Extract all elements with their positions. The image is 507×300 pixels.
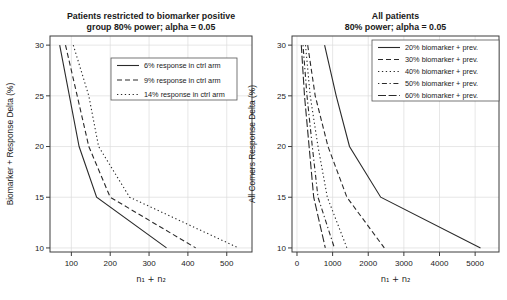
legend: 20% biomarker + prev.30% biomarker + pre… — [372, 40, 499, 101]
y-tick-label: 15 — [35, 193, 44, 202]
right-chart: 0100020003000400050001015202530All patie… — [247, 11, 499, 284]
legend-label: 14% response in ctrl arm — [144, 90, 225, 99]
y-tick-label: 30 — [277, 41, 286, 50]
y-axis-label: Biomarker + Response Delta (%) — [5, 82, 15, 205]
chart-title: group 80% power; alpha = 0.05 — [87, 22, 216, 32]
x-tick-label: 400 — [181, 259, 195, 268]
x-tick-label: 0 — [295, 259, 300, 268]
x-tick-label: 4000 — [431, 259, 449, 268]
chart-title: All patients — [372, 11, 420, 21]
x-tick-label: 100 — [65, 259, 79, 268]
x-tick-label: 300 — [142, 259, 156, 268]
x-tick-label: 500 — [220, 259, 234, 268]
y-tick-label: 15 — [277, 193, 286, 202]
chart-title: Patients restricted to biomarker positiv… — [67, 11, 235, 21]
legend-label: 30% biomarker + prev. — [405, 55, 478, 64]
figure-canvas: 1002003004005001015202530Patients restri… — [0, 0, 507, 300]
y-tick-label: 20 — [277, 142, 286, 151]
y-tick-label: 10 — [277, 244, 286, 253]
y-tick-label: 10 — [35, 244, 44, 253]
x-axis-label: n₁ + n₂ — [381, 274, 411, 284]
legend: 6% response in ctrl arm9% response in ct… — [111, 58, 237, 100]
x-axis-label: n₁ + n₂ — [136, 274, 166, 284]
y-tick-label: 20 — [35, 142, 44, 151]
chart-title: 80% power; alpha = 0.05 — [345, 22, 447, 32]
legend-label: 20% biomarker + prev. — [405, 43, 478, 52]
legend-label: 6% response in ctrl arm — [144, 61, 221, 70]
left-chart: 1002003004005001015202530Patients restri… — [5, 11, 252, 284]
power-curves-figure: 1002003004005001015202530Patients restri… — [0, 0, 507, 300]
x-tick-label: 200 — [104, 259, 118, 268]
y-tick-label: 30 — [35, 41, 44, 50]
legend-label: 40% biomarker + prev. — [405, 67, 478, 76]
x-tick-label: 5000 — [466, 259, 484, 268]
y-tick-label: 25 — [35, 92, 44, 101]
legend-label: 60% biomarker + prev. — [405, 91, 478, 100]
x-tick-label: 3000 — [395, 259, 413, 268]
y-tick-label: 25 — [277, 92, 286, 101]
x-tick-label: 2000 — [359, 259, 377, 268]
legend-label: 9% response in ctrl arm — [144, 76, 221, 85]
legend-label: 50% biomarker + prev. — [405, 79, 478, 88]
y-axis-label: All Comers Response Delta (%) — [247, 85, 257, 203]
x-tick-label: 1000 — [324, 259, 342, 268]
